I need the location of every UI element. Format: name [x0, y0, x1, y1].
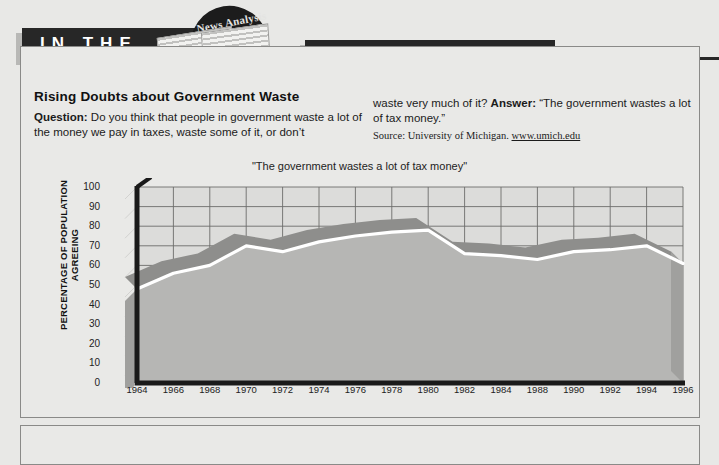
chart-title: "The government wastes a lot of tax mone…	[0, 160, 719, 172]
y-axis-tick-label: 0	[74, 377, 100, 388]
x-axis-tick-label: 1964	[126, 384, 147, 395]
x-axis-tick-label: 1996	[672, 384, 693, 395]
y-axis-tick-label: 100	[74, 181, 100, 192]
y-axis-tick-label: 20	[74, 338, 100, 349]
y-axis-tick-label: 40	[74, 299, 100, 310]
x-axis-tick-label: 1992	[600, 384, 621, 395]
x-axis-tick-label: 1982	[454, 384, 475, 395]
x-axis-tick-label: 1978	[381, 384, 402, 395]
question-text-continued: waste very much of it?	[373, 97, 491, 109]
y-axis-ticks: 1009080706050403020100	[72, 178, 100, 383]
source-url-link[interactable]: www.umich.edu	[512, 130, 581, 141]
x-axis-tick-label: 1974	[308, 384, 329, 395]
y-axis-tick-label: 90	[74, 201, 100, 212]
y-axis-tick-label: 50	[74, 279, 100, 290]
y-axis-tick-label: 80	[74, 220, 100, 231]
x-axis-tick-label: 1976	[345, 384, 366, 395]
x-axis-tick-label: 1994	[636, 384, 657, 395]
x-axis-tick-label: 1990	[563, 384, 584, 395]
x-axis-tick-label: 1972	[272, 384, 293, 395]
chart-plot	[103, 178, 694, 388]
x-axis-tick-label: 1984	[490, 384, 511, 395]
next-panel	[20, 425, 700, 465]
page-title: Rising Doubts about Government Waste	[34, 89, 299, 104]
y-axis-tick-label: 30	[74, 318, 100, 329]
answer-column: waste very much of it? Answer: “The gove…	[373, 96, 698, 126]
x-axis-tick-label: 1970	[236, 384, 257, 395]
answer-label: Answer:	[491, 97, 536, 109]
question-label: Question:	[34, 111, 88, 123]
x-axis-tick-label: 1980	[418, 384, 439, 395]
chart: PERCENTAGE OF POPULATION AGREEING 100908…	[34, 178, 694, 396]
x-axis-tick-label: 1968	[199, 384, 220, 395]
y-axis-tick-label: 10	[74, 357, 100, 368]
x-axis-ticks: 1964196619681970197219741976197819801982…	[103, 384, 694, 400]
x-axis-tick-label: 1988	[527, 384, 548, 395]
x-axis-tick-label: 1966	[163, 384, 184, 395]
question-column: Question: Do you think that people in go…	[34, 110, 364, 140]
y-axis-tick-label: 70	[74, 240, 100, 251]
y-axis-tick-label: 60	[74, 259, 100, 270]
source-prefix: Source: University of Michigan.	[373, 130, 512, 141]
source-line: Source: University of Michigan. www.umic…	[373, 130, 698, 141]
